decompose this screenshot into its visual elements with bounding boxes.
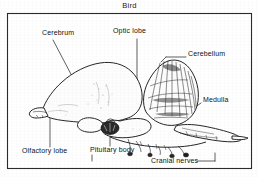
label-olfactory-lobe: Olfactory lobe (22, 147, 67, 154)
label-optic-lobe: Optic lobe (113, 27, 146, 34)
spinal-cord-outline (232, 136, 248, 140)
leader-cerebellum-hook (161, 57, 166, 62)
midbrain-outline (77, 118, 103, 133)
bird-brain-figure: Bird (0, 0, 259, 177)
label-medulla: Medulla (203, 96, 229, 103)
leader-cerebrum (53, 40, 73, 78)
label-cerebrum: Cerebrum (42, 29, 74, 36)
label-pituitary-body: Pituitary body (90, 146, 135, 153)
cranial-nerves-shapes (128, 139, 189, 158)
label-cranial-nerves: Cranial nerves (151, 157, 198, 164)
cerebrum-outline (43, 62, 142, 123)
brain-outline-group (29, 60, 248, 147)
label-cerebellum: Cerebellum (188, 50, 225, 57)
